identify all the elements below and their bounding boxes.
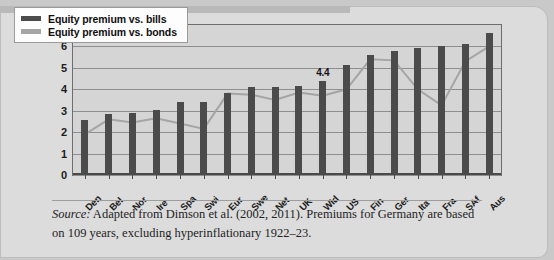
bar bbox=[343, 65, 350, 175]
bonds-line-series bbox=[73, 25, 501, 175]
x-axis-tick bbox=[180, 175, 181, 179]
x-axis-line bbox=[73, 173, 501, 175]
bar bbox=[81, 120, 88, 175]
figure-caption: Source: Adapted from Dimson et al. (2002… bbox=[52, 205, 482, 244]
x-axis-tick bbox=[442, 175, 443, 179]
bar bbox=[105, 114, 112, 175]
x-axis-tick bbox=[275, 175, 276, 179]
x-axis-tick bbox=[109, 175, 110, 179]
x-axis-tick bbox=[251, 175, 252, 179]
legend-swatch-bills bbox=[21, 16, 41, 21]
figure-page: 01234564.4 DenBelNorIreSpaSwiEurSweNetUK… bbox=[0, 0, 554, 260]
gridline bbox=[73, 175, 501, 176]
x-axis-tick bbox=[370, 175, 371, 179]
bar bbox=[319, 81, 326, 175]
chart-legend: Equity premium vs. bills Equity premium … bbox=[14, 7, 188, 43]
x-axis-tick bbox=[299, 175, 300, 179]
y-axis-tick-label: 4 bbox=[61, 84, 67, 95]
x-axis-tick bbox=[85, 175, 86, 179]
chart-canvas: 01234564.4 bbox=[73, 25, 501, 175]
x-axis-tick bbox=[465, 175, 466, 179]
bar bbox=[295, 86, 302, 175]
bar bbox=[248, 87, 255, 175]
bar bbox=[272, 87, 279, 175]
x-axis-tick bbox=[228, 175, 229, 179]
legend-label-bills: Equity premium vs. bills bbox=[48, 13, 166, 25]
bar bbox=[414, 48, 421, 176]
bar-data-label: 4.4 bbox=[316, 67, 329, 78]
x-axis-tick bbox=[323, 175, 324, 179]
legend-swatch-bonds bbox=[21, 29, 41, 34]
caption-body: Adapted from Dimson et al. (2002, 2011).… bbox=[52, 207, 474, 240]
y-axis-tick-label: 3 bbox=[61, 105, 67, 116]
legend-label-bonds: Equity premium vs. bonds bbox=[48, 26, 177, 38]
bar bbox=[177, 102, 184, 175]
x-axis-tick bbox=[156, 175, 157, 179]
x-axis-tick bbox=[418, 175, 419, 179]
caption-source-label: Source: bbox=[52, 207, 90, 221]
bar bbox=[391, 51, 398, 175]
x-axis-tick bbox=[346, 175, 347, 179]
bar bbox=[129, 113, 136, 175]
legend-item-bills: Equity premium vs. bills bbox=[21, 12, 177, 25]
bar bbox=[224, 93, 231, 176]
bar bbox=[486, 33, 493, 176]
bar bbox=[200, 102, 207, 175]
bar bbox=[153, 110, 160, 175]
x-axis-tick bbox=[204, 175, 205, 179]
y-axis-tick-label: 1 bbox=[61, 148, 67, 159]
chart-plot-area: 01234564.4 DenBelNorIreSpaSwiEurSweNetUK… bbox=[72, 24, 502, 176]
x-axis-tick bbox=[132, 175, 133, 179]
y-axis-tick-label: 2 bbox=[61, 127, 67, 138]
bar bbox=[367, 55, 374, 175]
y-axis-tick-label: 0 bbox=[61, 170, 67, 181]
x-axis-tick bbox=[489, 175, 490, 179]
caption-divider bbox=[52, 200, 482, 201]
legend-item-bonds: Equity premium vs. bonds bbox=[21, 25, 177, 38]
bar bbox=[462, 44, 469, 175]
x-axis-tick bbox=[394, 175, 395, 179]
bar bbox=[438, 46, 445, 175]
y-axis-tick-label: 5 bbox=[61, 62, 67, 73]
